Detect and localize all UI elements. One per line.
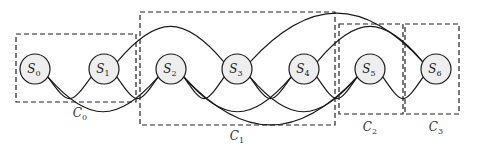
cluster-label: C1 (230, 129, 244, 145)
cluster-label: C2 (363, 120, 377, 136)
node-s1: S1 (89, 54, 119, 84)
edge-s3-s6 (250, 13, 423, 62)
node-s2: S2 (156, 54, 186, 84)
node-s5: S5 (355, 54, 385, 84)
cluster-label: C0 (73, 106, 87, 122)
node-s3: S3 (222, 54, 252, 84)
edge-s4-s5 (317, 77, 357, 99)
edge-s3-s4 (250, 77, 291, 99)
edge-s0-s1 (48, 77, 91, 99)
nodes: S0S1S2S3S4S5S6 (20, 54, 451, 84)
node-s0: S0 (20, 54, 50, 84)
node-s4: S4 (289, 54, 319, 84)
state-cluster-diagram: C0C1C2C3 S0S1S2S3S4S5S6 (0, 0, 477, 151)
edge-s2-s3 (184, 77, 224, 99)
cluster-label: C3 (429, 120, 443, 136)
edge-s1-s2 (117, 77, 158, 99)
node-s6: S6 (421, 54, 451, 84)
